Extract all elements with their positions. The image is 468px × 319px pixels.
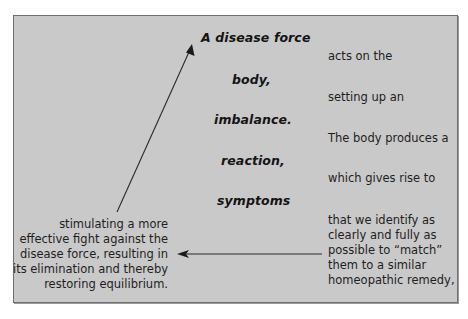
stimulating-line: effective fight against the — [13, 232, 168, 247]
stimulating-line: restoring equilibrium. — [13, 277, 168, 292]
phrase-gives-rise-to: which gives rise to — [328, 171, 435, 186]
identify-line: possible to “match” — [328, 243, 455, 258]
phrase-body-produces: The body produces a — [328, 131, 449, 146]
phrase-setting-up-an: setting up an — [328, 90, 404, 105]
term-imbalance: imbalance. — [214, 112, 292, 127]
identify-line: homeopathic remedy, — [328, 273, 455, 288]
identify-line: them to a similar — [328, 258, 455, 273]
phrase-acts-on-the: acts on the — [328, 49, 392, 64]
term-reaction: reaction, — [221, 153, 285, 168]
term-symptoms: symptoms — [217, 193, 290, 208]
stimulating-line: disease force, resulting in — [13, 247, 168, 262]
identify-line: clearly and fully as — [328, 228, 455, 243]
identify-symptoms-block: that we identify as clearly and fully as… — [328, 213, 455, 288]
identify-line: that we identify as — [328, 213, 455, 228]
stimulating-line: stimulating a more — [13, 217, 168, 232]
term-disease-force: A disease force — [201, 30, 310, 45]
stimulating-line: its elimination and thereby — [13, 262, 168, 277]
stimulating-block: stimulating a more effective fight again… — [13, 217, 168, 292]
term-body: body, — [232, 72, 271, 87]
